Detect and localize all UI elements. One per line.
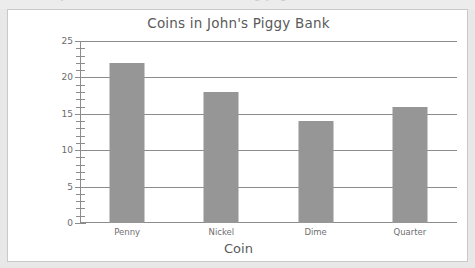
cropped-header-text: y g y g — [60, 0, 400, 2]
bar-penny — [110, 63, 145, 223]
bar-dime — [298, 121, 333, 223]
bar-quarter — [392, 107, 427, 223]
bar-slot — [363, 41, 457, 223]
y-axis-tick-label: 25 — [62, 36, 73, 46]
x-axis-tick-label: Quarter — [393, 227, 426, 237]
chart-title: Coins in John's Piggy Bank — [8, 15, 469, 31]
chart-card: Coins in John's Piggy Bank Number of coi… — [7, 9, 468, 262]
y-axis-tick-label: 10 — [62, 145, 73, 155]
x-axis-title: Coin — [8, 241, 469, 256]
y-axis-tick-label: 20 — [62, 72, 73, 82]
x-axis-tick-label: Nickel — [209, 227, 235, 237]
y-axis-major-tick — [75, 223, 86, 224]
bar-nickel — [204, 92, 239, 223]
cropped-header-sliver: y g y g — [0, 0, 475, 9]
bar-slot — [269, 41, 363, 223]
y-axis-tick-label: 0 — [67, 218, 73, 228]
x-axis-tick-label: Penny — [114, 227, 140, 237]
x-axis-tick-label: Dime — [304, 227, 326, 237]
bar-slot — [174, 41, 268, 223]
bar-slot — [80, 41, 174, 223]
plot-area: 0510152025 — [80, 41, 457, 223]
y-axis-tick-label: 5 — [67, 182, 73, 192]
y-axis-tick-label: 15 — [62, 109, 73, 119]
bar-series — [80, 41, 457, 223]
